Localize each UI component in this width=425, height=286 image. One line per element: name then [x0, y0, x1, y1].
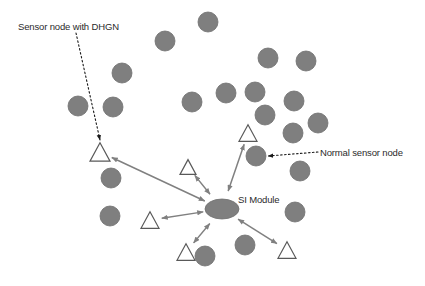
dhgn-node-lower-left [177, 244, 195, 261]
sensor-node [255, 105, 275, 125]
dhgn-node-layer [90, 125, 296, 261]
sensor-node [283, 123, 303, 143]
sensor-node [195, 246, 215, 266]
diagram-canvas [0, 0, 425, 286]
sensor-node [101, 168, 121, 188]
label-sensor-node-with-dhgn: Sensor node with DHGN [18, 21, 119, 32]
sensor-node [235, 235, 255, 255]
sensor-node [258, 48, 278, 68]
connection-dhgn-node-upper-right [228, 144, 244, 191]
sensor-node [103, 97, 123, 117]
sensor-node [112, 63, 132, 83]
sensor-node [155, 31, 175, 51]
label-si-module: SI Module [238, 194, 279, 205]
sensor-node [285, 202, 305, 222]
connection-dhgn-node-mid [195, 175, 210, 194]
sensor-node [296, 51, 316, 71]
sensor-node [198, 12, 218, 32]
sensor-node [308, 113, 328, 133]
sensor-node [290, 161, 310, 181]
sensor-node [245, 82, 265, 102]
sensor-node [68, 96, 88, 116]
sensor-node [182, 92, 202, 112]
sensor-node-layer [68, 12, 328, 266]
si-module-node [205, 199, 239, 219]
sensor-node [216, 83, 236, 103]
sensor-node [246, 146, 266, 166]
connection-dhgn-node-left [162, 212, 203, 218]
dhgn-node-left [141, 212, 159, 229]
dhgn-node-upper-right [239, 125, 257, 142]
dhgn-node-mid [180, 160, 196, 175]
dhgn-node-lower-right [278, 242, 296, 259]
si-module-layer [205, 199, 239, 219]
connection-dhgn-node-lower-left [194, 224, 210, 243]
callout-normal-node [268, 152, 318, 156]
dhgn-node-upper-left [90, 143, 110, 161]
label-normal-sensor-node: Normal sensor node [320, 147, 403, 158]
sensor-node [284, 91, 304, 111]
callout-sensor-dhgn [76, 33, 100, 140]
sensor-node [100, 206, 120, 226]
network-diagram-figure: Sensor node with DHGN Normal sensor node… [0, 0, 425, 286]
